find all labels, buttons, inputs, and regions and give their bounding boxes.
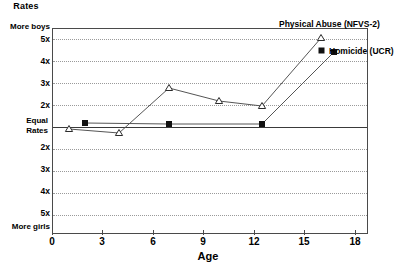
x-tick-12: [254, 230, 255, 235]
y-label-equal-line1: Equal: [26, 116, 48, 125]
gridline-girls-5x: [53, 215, 367, 216]
plot-area: [52, 28, 368, 234]
gridline-boys-2x: [53, 105, 367, 106]
x-label-6: 6: [141, 236, 165, 247]
gridline-girls-3x: [53, 171, 367, 172]
x-axis-title: Age: [148, 250, 268, 262]
y-label-equal-rates: Equal Rates: [0, 116, 48, 136]
x-tick-9: [203, 230, 204, 235]
y-label-boys-2x: 2x: [0, 101, 50, 110]
gridline-boys-4x: [53, 61, 367, 62]
x-label-0: 0: [40, 236, 64, 247]
x-label-12: 12: [242, 236, 266, 247]
x-tick-6: [153, 230, 154, 235]
gridline-girls-4x: [53, 193, 367, 194]
legend-item-physical-abuse: Physical Abuse (NFVS-2): [279, 18, 380, 29]
legend-label-physical-abuse: Physical Abuse (NFVS-2): [279, 19, 380, 29]
y-label-equal-line2: Rates: [26, 126, 48, 135]
y-label-boys-5x: 5x: [0, 35, 50, 44]
gridline-boys-5x: [53, 39, 367, 40]
x-label-15: 15: [292, 236, 316, 247]
y-label-girls-5x: 5x: [0, 209, 50, 218]
x-label-9: 9: [191, 236, 215, 247]
x-tick-18: [355, 230, 356, 235]
y-label-more-boys: More boys: [0, 22, 50, 31]
gridline-girls-2x: [53, 149, 367, 150]
gridline-boys-3x: [53, 83, 367, 84]
chart-container: Rates More boys 5x 4x 3x 2x Equal Rates …: [0, 0, 418, 274]
equal-rates-reference-line: [53, 127, 367, 128]
x-label-18: 18: [343, 236, 367, 247]
y-label-girls-4x: 4x: [0, 187, 50, 196]
x-tick-15: [304, 230, 305, 235]
y-axis-labels: More boys 5x 4x 3x 2x Equal Rates 2x 3x …: [0, 28, 50, 234]
legend-item-homicide: Homicide (UCR): [318, 45, 394, 56]
y-label-more-girls: More girls: [0, 222, 50, 231]
x-label-3: 3: [90, 236, 114, 247]
y-label-girls-2x: 2x: [0, 143, 50, 152]
y-label-girls-3x: 3x: [0, 165, 50, 174]
x-tick-3: [102, 230, 103, 235]
y-axis-title: Rates: [0, 1, 52, 11]
y-label-boys-4x: 4x: [0, 57, 50, 66]
x-tick-0: [52, 230, 53, 235]
legend-label-homicide: Homicide (UCR): [329, 46, 394, 56]
filled-square-marker: [318, 46, 325, 56]
y-label-boys-3x: 3x: [0, 79, 50, 88]
